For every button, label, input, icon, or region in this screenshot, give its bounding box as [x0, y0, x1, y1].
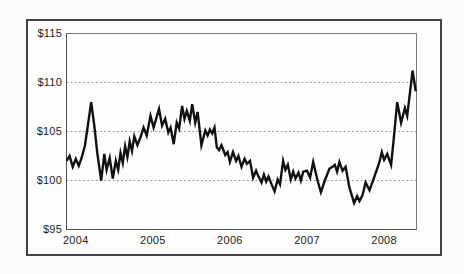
figure-frame: $115$110$105$100$95 20042005200620072008 [26, 19, 442, 256]
y-tick-label: $105 [28, 125, 62, 138]
y-tick-label: $110 [28, 76, 62, 89]
y-tick-label: $100 [28, 174, 62, 187]
y-tick-label: $115 [28, 27, 62, 40]
plot-border [67, 34, 417, 230]
x-tick-label: 2004 [54, 234, 98, 247]
price-line-series [67, 71, 416, 203]
x-tick-label: 2008 [362, 234, 406, 247]
x-tick-label: 2006 [208, 234, 252, 247]
price-line-chart [66, 33, 418, 231]
x-tick-label: 2007 [285, 234, 329, 247]
x-tick-label: 2005 [131, 234, 175, 247]
